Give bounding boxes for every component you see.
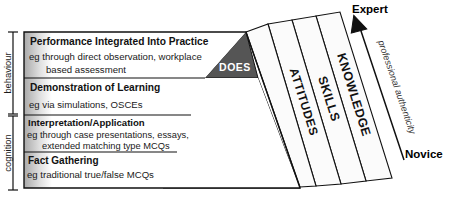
authenticity-arrow-label: professional authenticity	[376, 38, 418, 137]
descriptor-row-shows-example-1: eg via simulations, OSCEs	[29, 99, 143, 110]
axis-label-cognition: cognition	[2, 134, 13, 172]
left-axis-group: behaviour cognition	[2, 32, 18, 190]
descriptor-row-does-heading: Performance Integrated Into Practice	[30, 36, 209, 47]
descriptor-row-does-example-1: eg through direct observation, workplace	[29, 51, 202, 62]
descriptor-row-knows-how-example-1: eg through case presentations, essays,	[27, 130, 189, 140]
descriptor-row-does-example-2: based assessment	[46, 64, 126, 75]
axis-label-behaviour: behaviour	[2, 52, 13, 93]
diagram-canvas: KNOWLEDGE SKILLS ATTITUDES KNOWS	[0, 0, 450, 201]
descriptor-row-knows-example-1: eg traditional true/false MCQs	[27, 169, 154, 180]
descriptor-row-shows-heading: Demonstration of Learning	[30, 82, 160, 93]
expert-label: Expert	[352, 3, 388, 15]
pyramid-level-does-label: DOES	[219, 61, 251, 73]
descriptor-row-knows-heading: Fact Gathering	[28, 155, 99, 166]
millers-pyramid-diagram: KNOWLEDGE SKILLS ATTITUDES KNOWS	[0, 0, 450, 201]
authenticity-arrow-head-icon	[346, 13, 367, 34]
descriptor-row-knows-how-example-2: extended matching type MCQs	[42, 141, 170, 151]
novice-label: Novice	[405, 148, 443, 160]
descriptor-row-knows-how-heading: Interpretation/Application	[28, 117, 145, 128]
